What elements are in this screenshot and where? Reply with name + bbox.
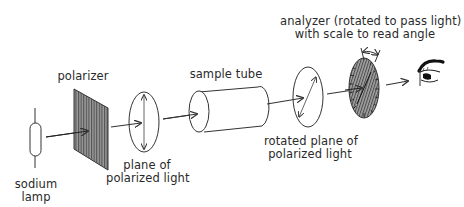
rotated-plane-ellipse-icon <box>293 67 323 127</box>
analyzer-icon <box>345 48 380 118</box>
label-line: with scale to read angle <box>280 28 450 41</box>
label-line: polarized light <box>264 148 356 161</box>
beam-arrow-6 <box>386 81 408 85</box>
label-rotated-plane: rotated plane of polarized light <box>264 135 356 161</box>
plane-polarized-ellipse-icon <box>129 92 159 152</box>
eye-icon <box>419 61 443 86</box>
beam-arrow-4 <box>267 98 303 104</box>
label-line: polarized light <box>106 172 188 185</box>
label-polarizer: polarizer <box>56 70 110 83</box>
label-line: polarizer <box>56 70 110 83</box>
label-line: lamp <box>12 191 60 204</box>
label-plane-polarized: plane of polarized light <box>106 159 188 185</box>
beam-arrow-2 <box>111 123 141 127</box>
polarizer-icon <box>46 89 108 170</box>
sodium-lamp-icon <box>30 108 41 168</box>
label-sample-tube: sample tube <box>186 68 266 81</box>
sample-tube-icon <box>163 86 269 132</box>
label-line: sample tube <box>186 68 266 81</box>
label-analyzer: analyzer (rotated to pass light) with sc… <box>280 15 450 41</box>
label-sodium-lamp: sodium lamp <box>12 178 60 204</box>
